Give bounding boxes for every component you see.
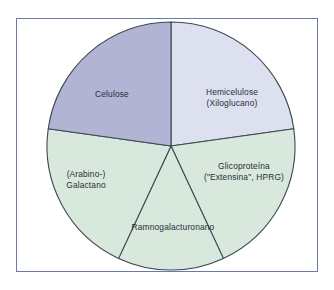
pie-label-line: Ramnogalacturonano [132,222,215,232]
figure-root: Hemicelulose(Xiloglucano)Glicoproteína("… [0,0,334,290]
pie-label-line: ("Extensina", HPRG) [204,172,284,182]
pie-label-arabino-galactano: (Arabino-)Galactano [66,169,106,190]
pie-label-celulose: Celulose [95,89,129,99]
pie-label-line: Glicoproteína [218,161,270,171]
pie-label-line: Celulose [95,89,129,99]
pie-slice-celulose[interactable] [48,22,171,146]
pie-label-hemicelulose: Hemicelulose(Xiloglucano) [206,87,258,108]
pie-slices-group [47,22,295,270]
pie-label-line: (Arabino-) [67,169,106,179]
pie-chart: Hemicelulose(Xiloglucano)Glicoproteína("… [0,0,334,290]
pie-label-line: Galactano [66,180,106,190]
pie-label-line: (Xiloglucano) [207,98,258,108]
pie-label-line: Hemicelulose [206,87,258,97]
pie-slice-hemicelulose[interactable] [171,22,294,146]
pie-label-ramnogalacturonano: Ramnogalacturonano [132,222,215,232]
